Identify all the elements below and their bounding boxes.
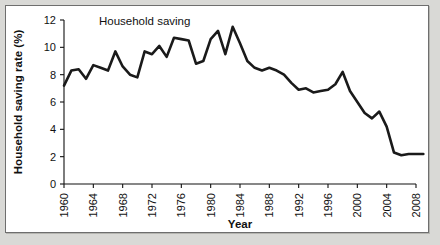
- x-tick-label: 1972: [146, 193, 158, 217]
- x-tick-label: 1980: [205, 193, 217, 217]
- y-tick-marks: [60, 20, 64, 184]
- chart-panel: 024681012 196019641968197219761980198419…: [5, 5, 429, 233]
- x-tick-label: 1960: [58, 193, 70, 217]
- x-tick-label: 1976: [175, 193, 187, 217]
- x-tick-label: 1992: [293, 193, 305, 217]
- x-tick-marks: [64, 184, 416, 188]
- y-tick-label: 4: [50, 123, 56, 135]
- y-tick-label: 10: [44, 41, 56, 53]
- y-tick-label: 12: [44, 14, 56, 26]
- x-tick-label: 1964: [87, 193, 99, 217]
- y-tick-label: 2: [50, 151, 56, 163]
- data-series-group: [64, 27, 423, 155]
- figure-root: 024681012 196019641968197219761980198419…: [0, 0, 440, 245]
- x-axis: 1960196419681972197619801984198819921996…: [58, 184, 422, 217]
- y-tick-labels: 024681012: [44, 14, 56, 190]
- x-tick-label: 1984: [234, 193, 246, 217]
- x-tick-label: 2004: [381, 193, 393, 217]
- x-tick-label: 1996: [322, 193, 334, 217]
- y-axis-title: Household saving rate (%): [12, 30, 24, 175]
- x-tick-labels: 1960196419681972197619801984198819921996…: [58, 193, 422, 217]
- household-saving-line-chart: 024681012 196019641968197219761980198419…: [6, 6, 428, 232]
- x-tick-label: 1988: [263, 193, 275, 217]
- x-tick-label: 2008: [410, 193, 422, 217]
- series-line-household-saving: [64, 27, 423, 155]
- x-tick-label: 1968: [117, 193, 129, 217]
- y-tick-label: 8: [50, 69, 56, 81]
- series-annotations: Household saving: [99, 15, 190, 27]
- y-tick-label: 0: [50, 178, 56, 190]
- y-axis: 024681012: [44, 14, 64, 190]
- x-tick-label: 2000: [351, 193, 363, 217]
- series-annotation-label: Household saving: [99, 15, 190, 27]
- x-axis-title: Year: [228, 218, 253, 230]
- y-tick-label: 6: [50, 96, 56, 108]
